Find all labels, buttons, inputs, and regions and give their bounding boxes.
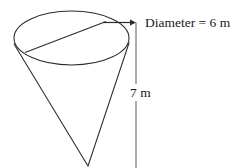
diameter-chord: [25, 22, 106, 53]
cone-body: [14, 43, 129, 166]
cone-diagram: Diameter = 6 m 7 m: [0, 0, 243, 168]
diameter-arrow-icon: [130, 19, 136, 25]
cone-slant-lines: [14, 43, 129, 166]
cone-base-ellipse: [14, 11, 129, 65]
base-ellipse-outline: [14, 11, 129, 65]
diameter-line: [25, 22, 106, 53]
height-label: 7 m: [130, 86, 151, 100]
diameter-leader: [103, 19, 136, 25]
diameter-label: Diameter = 6 m: [145, 16, 230, 30]
